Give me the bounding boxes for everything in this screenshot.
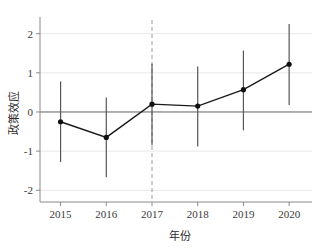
chart-canvas: -2-1012 201520162017201820192020 政策效应 年份 [0,0,321,248]
series-line [61,64,290,137]
y-tick-labels: -2-1012 [24,28,34,197]
x-tick-label: 2017 [141,208,164,220]
y-tick-label: -2 [24,184,33,196]
y-tick-label: 1 [28,67,34,79]
x-tick-label: 2020 [278,208,301,220]
data-point-markers [58,62,292,140]
y-tick-label: -1 [24,145,33,157]
x-tick-label: 2019 [232,208,255,220]
y-tick-label: 2 [28,28,34,40]
estimate-line [61,64,290,137]
x-tick-labels: 201520162017201820192020 [50,208,301,220]
y-tick-label: 0 [28,106,34,118]
x-tick-label: 2018 [187,208,210,220]
data-point-marker [149,102,154,107]
error-bars [61,24,290,177]
x-axis-title: 年份 [169,229,191,242]
x-tick-label: 2016 [95,208,118,220]
x-axis [40,202,312,206]
event-study-chart: -2-1012 201520162017201820192020 政策效应 年份 [0,0,321,248]
y-axis [36,17,40,202]
y-axis-title: 政策效应 [7,91,20,135]
data-point-marker [287,62,292,67]
data-point-marker [241,87,246,92]
data-point-marker [195,104,200,109]
data-point-marker [104,135,109,140]
data-point-marker [58,119,63,124]
x-tick-label: 2015 [50,208,73,220]
